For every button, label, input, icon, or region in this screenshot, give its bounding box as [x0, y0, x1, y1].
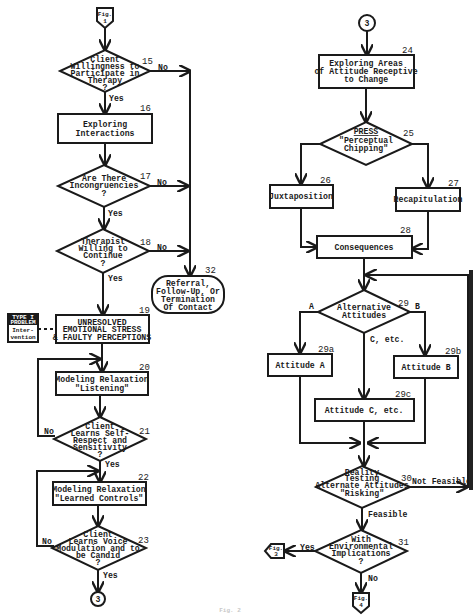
svg-text:4: 4 [359, 602, 363, 609]
svg-text:Of Contact: Of Contact [163, 303, 212, 312]
figure-caption: Fig. 2 [219, 607, 241, 614]
svg-text:"Risking": "Risking" [340, 489, 384, 498]
edge-label-a: A [309, 302, 314, 311]
svg-text:?: ? [102, 189, 107, 198]
svg-text:"Learned Controls": "Learned Controls" [55, 494, 143, 503]
edge-label-feasible: Feasible [368, 510, 407, 519]
side-note-type1-problem: TYPE I PROBLEM Inter- vention [8, 314, 38, 342]
flowchart: Fig. 1 Client Willingness to Participate… [0, 0, 473, 616]
svg-text:30: 30 [401, 474, 412, 484]
svg-text:Attitude A: Attitude A [275, 361, 324, 370]
svg-text:15: 15 [142, 57, 153, 67]
svg-text:Modeling Relaxation: Modeling Relaxation [52, 485, 145, 494]
decision-31-environmental-implications: With Environmental Implications ? 31 [315, 530, 409, 573]
offpage-connector-fig3: Fig. 3 [265, 544, 284, 558]
svg-text:32: 32 [205, 266, 216, 276]
edge-label-yes-21: Yes [105, 460, 120, 469]
svg-text:vention: vention [10, 334, 36, 341]
svg-text:17: 17 [140, 172, 151, 182]
decision-30-reality-testing: Reality Testing Alternate Attitudes "Ris… [315, 466, 411, 508]
edge-label-yes-23: Yes [103, 571, 118, 580]
onpage-connector-3-in: 3 [359, 15, 375, 31]
svg-text:3: 3 [96, 595, 101, 604]
edge-label-yes-17: Yes [108, 209, 123, 218]
svg-text:Attitude C, etc.: Attitude C, etc. [325, 406, 404, 415]
edge-label-yes-15: Yes [109, 94, 124, 103]
svg-text:29c: 29c [395, 390, 411, 400]
svg-text:Chipping": Chipping" [344, 144, 388, 153]
svg-text:3: 3 [274, 551, 278, 558]
edge-label-no-23: No [42, 537, 52, 546]
svg-text:26: 26 [320, 176, 331, 186]
svg-text:Attitude B: Attitude B [401, 363, 450, 372]
svg-text:20: 20 [139, 363, 150, 373]
svg-text:29a: 29a [318, 345, 335, 355]
svg-text:to Change: to Change [344, 75, 388, 84]
svg-text:28: 28 [400, 226, 411, 236]
edge-label-no-31: No [368, 574, 378, 583]
svg-text:23: 23 [138, 536, 149, 546]
svg-text:18: 18 [140, 238, 151, 248]
svg-text:16: 16 [140, 104, 151, 114]
decision-25-press-perceptual-chipping: PRESS "Perceptual Chipping" 25 [320, 122, 414, 165]
svg-text:31: 31 [398, 538, 409, 548]
svg-text:Consequences: Consequences [335, 243, 394, 252]
svg-text:Juxtaposition: Juxtaposition [269, 192, 333, 201]
process-28-consequences: Consequences 28 [317, 226, 412, 258]
decision-23-voice-modulation: Client Learns Voice Modulation and to be… [52, 526, 149, 570]
edge-label-yes-18: Yes [108, 274, 123, 283]
offpage-connector-fig1: Fig. 1 [97, 8, 113, 28]
svg-text:?: ? [98, 450, 103, 459]
svg-text:?: ? [96, 558, 101, 567]
svg-text:PROBLEM: PROBLEM [10, 319, 36, 326]
svg-text:24: 24 [402, 46, 413, 56]
svg-text:Modeling Relaxation: Modeling Relaxation [55, 375, 148, 384]
svg-text:21: 21 [139, 427, 150, 437]
svg-text:Interactions: Interactions [76, 129, 135, 138]
svg-text:Attitudes: Attitudes [342, 311, 386, 320]
svg-text:19: 19 [139, 306, 150, 316]
decision-18-therapist-willing: Therapist Willing to Continue ? 18 [57, 229, 151, 273]
svg-text:PRESS: PRESS [354, 127, 379, 136]
svg-text:27: 27 [448, 179, 459, 189]
decision-29-alternative-attitudes: Alternative Attitudes 29 [318, 290, 410, 333]
decision-17-incongruencies: Are There Incongruencies ? 17 [58, 165, 151, 207]
svg-text:Recapitulation: Recapitulation [394, 195, 463, 204]
svg-text:?: ? [101, 259, 106, 268]
svg-text:25: 25 [403, 129, 414, 139]
edge-label-not-feasible: Not Feasible [412, 477, 471, 486]
terminator-32-referral: Referral, Follow-Up, Or Termination Of C… [152, 266, 224, 313]
svg-text:"Listening": "Listening" [75, 384, 129, 393]
svg-text:1: 1 [103, 18, 107, 25]
svg-text:Fig.: Fig. [98, 11, 112, 18]
offpage-connector-fig4: Fig. 4 [353, 593, 369, 613]
process-29a-attitude-a: Attitude A 29a [268, 345, 335, 376]
decision-15-client-willingness: Client Willingness to Participate in The… [60, 50, 153, 92]
edge-label-c-etc: C, etc. [370, 335, 404, 344]
svg-text:29b: 29b [445, 347, 461, 357]
svg-text:3: 3 [365, 19, 370, 28]
onpage-connector-3-out: 3 [91, 592, 105, 606]
process-29b-attitude-b: Attitude B 29b [394, 347, 461, 378]
svg-text:Inter-: Inter- [12, 327, 34, 334]
svg-text:Fig.: Fig. [354, 595, 368, 602]
decision-21-self-respect: Client Learns Self- Respect and Sensitiv… [54, 417, 150, 461]
svg-text:& FAULTY PERCEPTIONS: & FAULTY PERCEPTIONS [53, 333, 151, 342]
page-edge-shadow [469, 270, 473, 490]
svg-text:?: ? [103, 83, 108, 92]
svg-text:22: 22 [138, 473, 149, 483]
edge-label-b: B [415, 302, 420, 311]
svg-text:?: ? [359, 557, 364, 566]
edge-label-no-21: No [44, 427, 54, 436]
svg-text:Exploring: Exploring [83, 120, 127, 129]
svg-text:29: 29 [398, 299, 409, 309]
